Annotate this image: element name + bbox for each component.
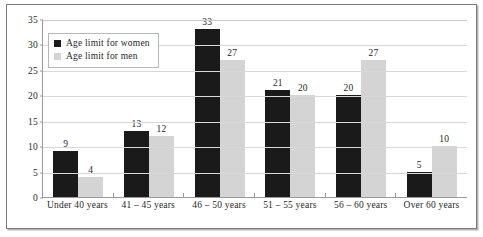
- category-label: Under 40 years: [42, 200, 113, 210]
- gridline: [43, 20, 467, 21]
- bar-group: 2027: [326, 20, 397, 197]
- y-axis-tick-label: 20: [28, 91, 38, 101]
- category-label: 46 – 50 years: [184, 200, 255, 210]
- bar-value-label: 12: [157, 124, 167, 134]
- bar-pair: 2027: [336, 20, 386, 197]
- y-axis-tick-label: 30: [28, 40, 38, 50]
- gridline: [43, 96, 467, 97]
- bar-women[interactable]: 5: [407, 172, 432, 197]
- y-axis-tick-mark: [40, 70, 43, 71]
- gridline: [43, 173, 467, 174]
- y-axis-tick-mark: [40, 45, 43, 46]
- legend-item: Age limit for men: [54, 50, 150, 63]
- bar-group: 2120: [255, 20, 326, 197]
- bar-value-label: 27: [227, 48, 237, 58]
- y-axis-tick-label: 15: [28, 117, 38, 127]
- bar-women[interactable]: 21: [265, 90, 290, 197]
- legend-swatch-women-icon: [54, 40, 61, 47]
- y-axis-tick-label: 5: [33, 168, 38, 178]
- legend-label-women: Age limit for women: [66, 37, 150, 50]
- y-axis-tick-label: 25: [28, 66, 38, 76]
- chart-legend: Age limit for women Age limit for men: [48, 33, 159, 68]
- bar-value-label: 5: [417, 160, 422, 170]
- bar-men[interactable]: 27: [220, 60, 245, 197]
- bar-value-label: 20: [344, 83, 354, 93]
- bar-men[interactable]: 20: [290, 95, 315, 197]
- y-axis-tick-mark: [40, 198, 43, 199]
- bar-value-label: 20: [298, 83, 308, 93]
- y-axis-tick-label: 35: [28, 15, 38, 25]
- bar-pair: 510: [407, 20, 457, 197]
- y-axis-tick-mark: [40, 20, 43, 21]
- gridline: [43, 147, 467, 148]
- bar-value-label: 33: [202, 17, 212, 27]
- bar-value-label: 10: [439, 134, 449, 144]
- chart-figure: 941312332721202027510 05101520253035 Und…: [0, 0, 483, 237]
- bar-women[interactable]: 20: [336, 95, 361, 197]
- bar-group: 510: [396, 20, 467, 197]
- bar-women[interactable]: 9: [53, 151, 78, 197]
- legend-item: Age limit for women: [54, 37, 150, 50]
- bar-value-label: 27: [369, 48, 379, 58]
- category-label: 51 – 55 years: [254, 200, 325, 210]
- bar-value-label: 13: [132, 119, 142, 129]
- gridline: [43, 71, 467, 72]
- category-label: 41 – 45 years: [113, 200, 184, 210]
- y-axis-tick-label: 10: [28, 142, 38, 152]
- bar-men[interactable]: 27: [361, 60, 386, 197]
- gridline: [43, 122, 467, 123]
- bar-men[interactable]: 12: [149, 136, 174, 197]
- bar-pair: 2120: [265, 20, 315, 197]
- bar-pair: 3327: [195, 20, 245, 197]
- bar-women[interactable]: 13: [124, 131, 149, 197]
- y-axis-tick-mark: [40, 147, 43, 148]
- legend-swatch-men-icon: [54, 53, 61, 60]
- bar-group: 3327: [184, 20, 255, 197]
- category-label: Over 60 years: [396, 200, 467, 210]
- bar-men[interactable]: 4: [78, 177, 103, 197]
- legend-label-men: Age limit for men: [66, 50, 138, 63]
- y-axis-tick-mark: [40, 121, 43, 122]
- y-axis-tick-mark: [40, 96, 43, 97]
- category-axis-labels: Under 40 years41 – 45 years46 – 50 years…: [42, 200, 467, 210]
- bar-value-label: 21: [273, 78, 283, 88]
- y-axis-tick-label: 0: [33, 193, 38, 203]
- y-axis-tick-mark: [40, 172, 43, 173]
- category-label: 56 – 60 years: [325, 200, 396, 210]
